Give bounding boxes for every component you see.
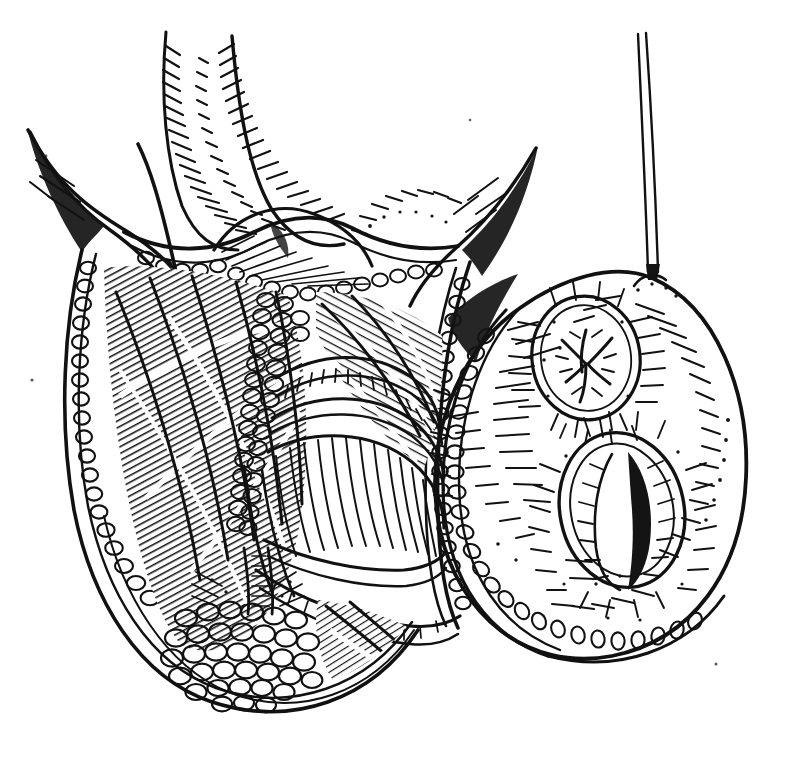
surgical-illustration — [0, 0, 793, 765]
figure-page: Surgical exposure of scrotal contents wi… — [0, 0, 793, 765]
